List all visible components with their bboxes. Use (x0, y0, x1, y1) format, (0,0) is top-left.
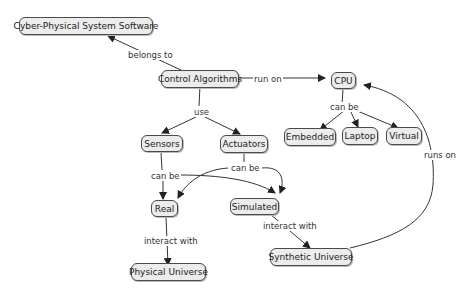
link-label-actuators-can-be: can be (230, 163, 261, 173)
node-label: Virtual (389, 131, 418, 141)
node-label: Simulated (232, 202, 277, 212)
link-label-belongs-to: belongs to (127, 50, 174, 60)
node-label: Control Algorithms (158, 74, 242, 84)
node-label: Synthetic Universe (269, 252, 354, 262)
link-label-real-interact-with: interact with (143, 236, 199, 246)
node-simulated[interactable]: Simulated (230, 198, 279, 215)
link-label-use: use (193, 107, 210, 117)
node-label: CPU (334, 76, 352, 86)
node-label: Laptop (345, 131, 376, 141)
node-label: Cyber-Physical System Software (14, 21, 159, 31)
node-cpu[interactable]: CPU (331, 72, 356, 89)
node-virtual[interactable]: Virtual (386, 127, 422, 145)
node-laptop[interactable]: Laptop (342, 127, 378, 145)
node-embedded[interactable]: Embedded (284, 128, 336, 146)
link-label-simulated-interact-with: interact with (262, 221, 318, 231)
node-real[interactable]: Real (151, 200, 178, 217)
node-cyber-physical-system-software[interactable]: Cyber-Physical System Software (19, 17, 153, 35)
node-physical-universe[interactable]: Physical Universe (131, 263, 206, 281)
node-label: Actuators (222, 139, 265, 149)
link-label-run-on: run on (253, 74, 283, 84)
node-label: Sensors (144, 139, 180, 149)
node-sensors[interactable]: Sensors (141, 135, 183, 152)
node-label: Embedded (286, 132, 334, 142)
node-synthetic-universe[interactable]: Synthetic Universe (270, 248, 352, 266)
concept-map: Cyber-Physical System Software Control A… (0, 0, 466, 295)
node-label: Physical Universe (129, 267, 208, 277)
node-label: Real (155, 204, 174, 214)
node-control-algorithms[interactable]: Control Algorithms (161, 70, 239, 88)
link-label-cpu-can-be: can be (329, 102, 360, 112)
link-label-sensors-can-be: can be (150, 171, 181, 181)
node-actuators[interactable]: Actuators (220, 135, 268, 153)
link-label-runs-on: runs on (423, 150, 457, 160)
